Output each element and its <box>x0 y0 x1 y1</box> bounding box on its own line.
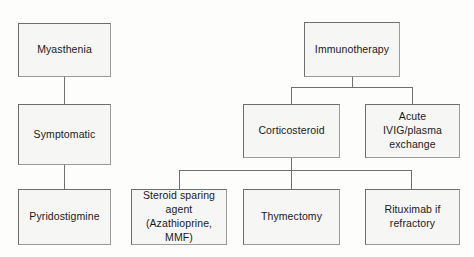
node-pyridostigmine[interactable]: Pyridostigmine <box>18 189 111 245</box>
node-myasthenia-label: Myasthenia <box>23 43 106 57</box>
node-steroid-sparing-agent-label: Steroid sparing agent (Azathioprine, MMF… <box>136 189 222 244</box>
node-corticosteroid-label: Corticosteroid <box>248 124 335 138</box>
node-pyridostigmine-label: Pyridostigmine <box>23 210 106 224</box>
node-corticosteroid[interactable]: Corticosteroid <box>243 104 340 158</box>
node-steroid-sparing-agent[interactable]: Steroid sparing agent (Azathioprine, MMF… <box>131 189 227 245</box>
node-symptomatic-label: Symptomatic <box>23 128 106 142</box>
node-acute-ivig-plasma-exchange[interactable]: Acute IVIG/plasma exchange <box>365 104 460 158</box>
edge-immunotherapy-bus <box>291 87 413 88</box>
edge-immunotherapy-acute-ivig <box>412 87 413 104</box>
edge-symptomatic-pyridostigmine <box>64 165 65 189</box>
edge-immunotherapy-stem <box>352 77 353 87</box>
node-thymectomy-label: Thymectomy <box>248 210 335 224</box>
node-immunotherapy[interactable]: Immunotherapy <box>304 22 400 77</box>
node-thymectomy[interactable]: Thymectomy <box>243 189 340 245</box>
node-acute-ivig-plasma-exchange-label: Acute IVIG/plasma exchange <box>370 110 455 152</box>
node-immunotherapy-label: Immunotherapy <box>309 43 395 57</box>
edge-corticosteroid-steroid-sparing <box>179 170 180 189</box>
node-rituximab-if-refractory-label: Rituximab if refractory <box>370 203 455 231</box>
edge-myasthenia-symptomatic <box>64 77 65 104</box>
edge-corticosteroid-bus <box>179 170 411 171</box>
flowchart-canvas: Myasthenia Symptomatic Pyridostigmine Im… <box>0 0 474 257</box>
node-rituximab-if-refractory[interactable]: Rituximab if refractory <box>365 189 460 245</box>
edge-corticosteroid-thymectomy <box>291 170 292 189</box>
edge-immunotherapy-corticosteroid <box>291 87 292 104</box>
node-myasthenia[interactable]: Myasthenia <box>18 23 111 77</box>
node-symptomatic[interactable]: Symptomatic <box>18 104 111 165</box>
edge-corticosteroid-rituximab <box>411 170 412 189</box>
